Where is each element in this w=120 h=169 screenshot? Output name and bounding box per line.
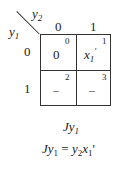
col-header-1: 1 xyxy=(90,19,97,35)
row-header-0: 0 xyxy=(24,44,31,60)
cell-index-2: 2 xyxy=(65,72,70,82)
cell-index-1: 1 xyxy=(102,36,107,46)
row-header-1: 1 xyxy=(24,81,31,97)
kmap-caption: Jy1 xyxy=(63,119,79,136)
row-variable-label: y1 xyxy=(9,24,19,41)
cell-value-1: x1' xyxy=(84,46,96,64)
cell-index-3: 3 xyxy=(102,72,107,82)
cell-value-3: – xyxy=(89,83,95,98)
cell-value-2: – xyxy=(53,83,59,98)
col-header-0: 0 xyxy=(55,19,62,35)
grid-horizontal-divider xyxy=(41,70,110,71)
cell-index-0: 0 xyxy=(65,36,70,46)
kmap-grid: 0 0 1 x1' 2 – 3 – xyxy=(40,34,111,106)
equation: Jy1 = y2x1' xyxy=(42,141,95,158)
col-variable-label: y2 xyxy=(32,6,42,23)
cell-value-0: 0 xyxy=(53,47,60,63)
